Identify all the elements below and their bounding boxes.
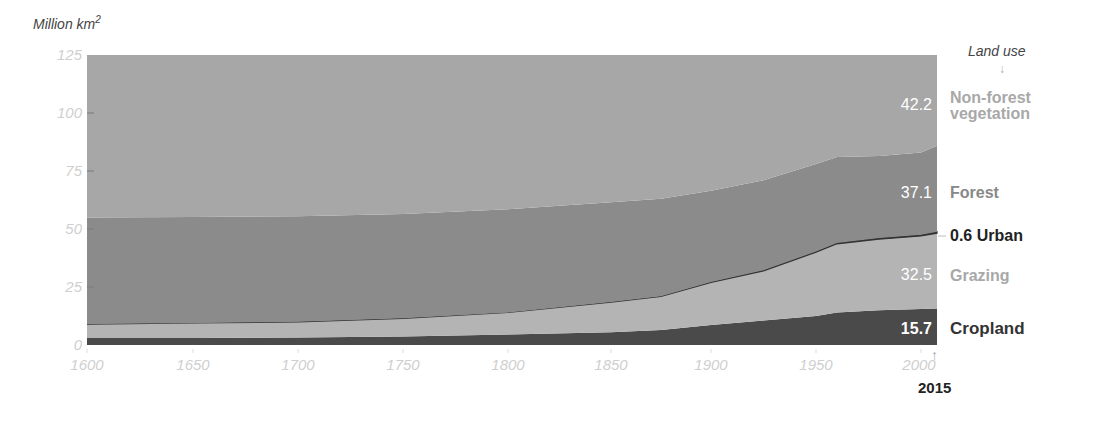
cropland-end-value: 15.7: [872, 320, 932, 338]
grazing-end-value: 32.5: [872, 266, 932, 284]
nonforest-end-value: 42.2: [872, 96, 932, 114]
y-tick-label: 25: [64, 278, 82, 295]
x-tick-label: 1650: [176, 356, 210, 373]
y-axis-unit-text: Million km: [33, 16, 95, 32]
urban-label-text: Urban: [977, 227, 1023, 244]
x-tick-label: 1700: [281, 356, 315, 373]
y-axis-unit-label: Million km2: [33, 14, 101, 32]
y-tick-label: 75: [65, 162, 82, 179]
down-arrow-icon: ↓: [999, 62, 1005, 76]
y-tick-label: 125: [57, 46, 83, 63]
urban-label: 0.6 Urban: [950, 227, 1023, 245]
stacked-area-chart: 0255075100125160016501700175018001850190…: [0, 0, 1094, 422]
x-tick-label: 1950: [799, 356, 833, 373]
cropland-label: Cropland: [950, 321, 1025, 337]
x-tick-label: 1600: [70, 356, 104, 373]
nonforest-label-line2: vegetation: [950, 106, 1031, 122]
x-tick-label: 1900: [694, 356, 728, 373]
end-year-label: 2015: [918, 379, 951, 396]
y-axis-unit-superscript: 2: [95, 14, 101, 25]
x-tick-label: 1850: [594, 356, 628, 373]
nonforest-label-line1: Non-forest: [950, 90, 1031, 106]
forest-label: Forest: [950, 185, 999, 201]
urban-end-value: 0.6: [950, 227, 972, 244]
legend-title: Land use: [968, 43, 1026, 59]
up-arrow-icon: ↑: [931, 347, 938, 363]
y-tick-label: 50: [65, 220, 82, 237]
grazing-label: Grazing: [950, 268, 1010, 284]
nonforest-label: Non-forest vegetation: [950, 90, 1031, 122]
y-tick-label: 0: [74, 336, 83, 353]
x-tick-label: 1800: [491, 356, 525, 373]
forest-end-value: 37.1: [872, 184, 932, 202]
x-tick-label: 1750: [386, 356, 420, 373]
y-tick-label: 100: [57, 104, 83, 121]
